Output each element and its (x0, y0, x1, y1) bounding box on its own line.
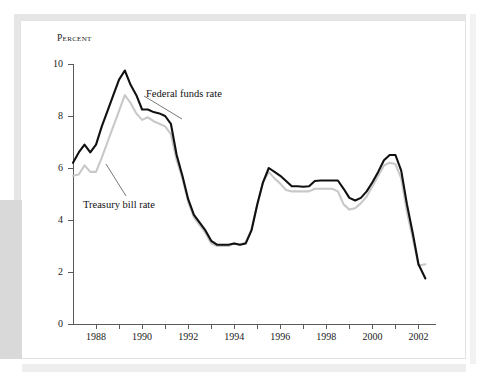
chart-plot-area: Percent 0246810 198819901992199419961998… (0, 0, 488, 379)
annotation-leader-lines (106, 96, 182, 196)
y-tick-label-0: 0 (45, 319, 63, 329)
series-annotation-label-0: Federal funds rate (146, 88, 222, 99)
annotation-leader-1 (106, 164, 126, 196)
y-tick-label-10: 10 (45, 59, 63, 69)
y-tick-label-2: 2 (45, 267, 63, 277)
x-tick-label-1998: 1998 (306, 332, 346, 342)
series-line-federal-funds-rate (73, 71, 425, 279)
chart-axes (68, 64, 436, 329)
x-tick-label-1990: 1990 (122, 332, 162, 342)
x-tick-label-1994: 1994 (214, 332, 254, 342)
screenshot-root: Percent 0246810 198819901992199419961998… (0, 0, 488, 379)
y-tick-label-4: 4 (45, 215, 63, 225)
series-annotation-label-1: Treasury bill rate (83, 199, 155, 210)
x-tick-label-1988: 1988 (76, 332, 116, 342)
y-tick-label-6: 6 (45, 163, 63, 173)
x-tick-label-1996: 1996 (260, 332, 300, 342)
x-tick-label-1992: 1992 (168, 332, 208, 342)
x-tick-label-2002: 2002 (398, 332, 438, 342)
chart-canvas (0, 0, 488, 379)
x-tick-label-2000: 2000 (352, 332, 392, 342)
y-tick-label-8: 8 (45, 111, 63, 121)
chart-series (73, 71, 425, 279)
